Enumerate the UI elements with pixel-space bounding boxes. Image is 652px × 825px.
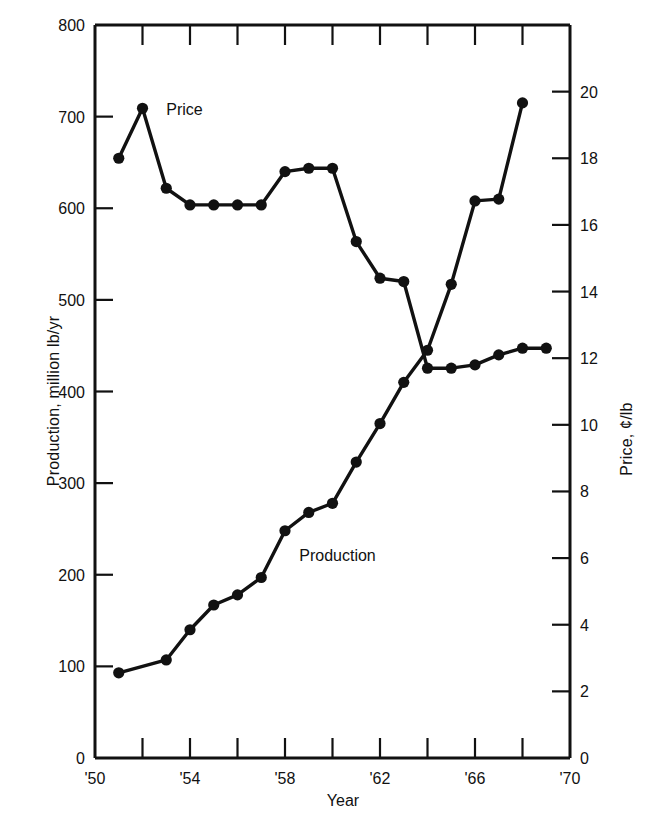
data-point xyxy=(351,456,362,467)
data-point xyxy=(184,624,195,635)
data-point xyxy=(398,276,409,287)
data-point xyxy=(256,199,267,210)
x-tick-label: '70 xyxy=(560,770,581,787)
data-point xyxy=(374,418,385,429)
x-axis-tick-labels: '50'54'58'62'66'70 xyxy=(85,770,581,787)
right-tick-label: 12 xyxy=(580,350,598,367)
data-point xyxy=(469,195,480,206)
data-point xyxy=(113,153,124,164)
plot-frame xyxy=(95,25,570,758)
data-point xyxy=(422,363,433,374)
data-point xyxy=(517,97,528,108)
right-tick-label: 0 xyxy=(580,750,589,767)
data-point xyxy=(493,193,504,204)
data-point xyxy=(161,183,172,194)
right-tick-label: 8 xyxy=(580,483,589,500)
right-axis-tick-labels: 02468101214161820 xyxy=(580,84,598,767)
data-point xyxy=(256,572,267,583)
data-point xyxy=(232,199,243,210)
line-production xyxy=(119,103,523,673)
data-point xyxy=(541,343,552,354)
left-tick-label: 0 xyxy=(76,750,85,767)
data-point xyxy=(184,199,195,210)
data-point xyxy=(374,273,385,284)
left-tick-label: 200 xyxy=(58,567,85,584)
right-tick-label: 18 xyxy=(580,150,598,167)
data-point xyxy=(446,363,457,374)
series-price xyxy=(113,103,552,374)
right-tick-label: 14 xyxy=(580,284,598,301)
series-label-price: Price xyxy=(166,101,203,118)
right-tick-label: 16 xyxy=(580,217,598,234)
x-tick-label: '66 xyxy=(465,770,486,787)
right-tick-label: 10 xyxy=(580,417,598,434)
top-axis-ticks xyxy=(143,25,523,45)
y-axis-left-title: Production, million lb/yr xyxy=(45,251,63,551)
data-point xyxy=(351,236,362,247)
x-axis-title-text: Year xyxy=(327,792,359,810)
right-axis-ticks xyxy=(552,92,570,692)
data-point xyxy=(303,163,314,174)
chart-figure: 0100200300400500600700800 02468101214161… xyxy=(0,0,652,825)
data-point xyxy=(161,654,172,665)
left-tick-label: 100 xyxy=(58,658,85,675)
data-point xyxy=(327,163,338,174)
data-point xyxy=(137,103,148,114)
data-point xyxy=(208,199,219,210)
x-tick-label: '50 xyxy=(85,770,106,787)
data-point xyxy=(232,589,243,600)
data-point xyxy=(517,343,528,354)
chart-svg: 0100200300400500600700800 02468101214161… xyxy=(0,0,652,825)
left-axis-ticks xyxy=(95,117,113,667)
series-production xyxy=(113,97,528,678)
data-point xyxy=(113,667,124,678)
x-axis-title: Year xyxy=(0,792,652,810)
data-point xyxy=(279,525,290,536)
data-point xyxy=(279,166,290,177)
left-tick-label: 700 xyxy=(58,109,85,126)
series-label-production: Production xyxy=(299,547,376,564)
right-tick-label: 2 xyxy=(580,683,589,700)
data-point xyxy=(327,498,338,509)
data-point xyxy=(303,507,314,518)
data-point xyxy=(446,279,457,290)
x-tick-label: '58 xyxy=(275,770,296,787)
bottom-axis-ticks xyxy=(143,738,523,758)
left-tick-label: 800 xyxy=(58,17,85,34)
left-tick-label: 600 xyxy=(58,200,85,217)
y-axis-right-title: Price, ¢/lb xyxy=(618,289,636,589)
data-point xyxy=(469,359,480,370)
data-point xyxy=(208,599,219,610)
x-tick-label: '54 xyxy=(180,770,201,787)
x-tick-label: '62 xyxy=(370,770,391,787)
right-tick-label: 6 xyxy=(580,550,589,567)
data-point xyxy=(493,349,504,360)
line-price xyxy=(119,108,547,368)
right-tick-label: 20 xyxy=(580,84,598,101)
data-point xyxy=(398,377,409,388)
right-tick-label: 4 xyxy=(580,617,589,634)
